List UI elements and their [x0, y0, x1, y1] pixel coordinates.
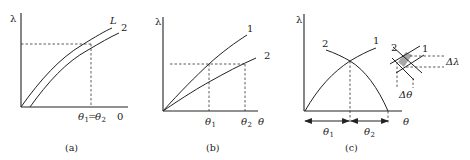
- svg-text:2: 2: [371, 131, 375, 139]
- svg-text:θ: θ: [364, 126, 370, 137]
- y-axis-label: λ: [155, 16, 162, 27]
- panel-a: λ L 2 θ 1 = θ 2 0 (a): [10, 13, 128, 153]
- delta-lambda-label: Δλ: [445, 56, 460, 67]
- curve-2: [30, 33, 119, 107]
- inset-uncertainty-diagram: 2 1 Δλ Δθ: [390, 42, 460, 100]
- inset-label-2: 2: [391, 42, 397, 53]
- svg-text:θ: θ: [323, 126, 329, 137]
- theta2-label: θ 2: [364, 126, 375, 139]
- theta1-label: θ 1: [323, 126, 334, 139]
- svg-text:2: 2: [102, 116, 106, 124]
- y-axis-label: λ: [296, 14, 303, 25]
- curve-label-2: 2: [322, 38, 328, 49]
- delta-theta-label: Δθ: [398, 89, 412, 100]
- svg-text:1: 1: [212, 121, 216, 129]
- curve-2: [163, 58, 256, 111]
- curve-label-L: L: [109, 15, 117, 26]
- svg-text:θ: θ: [205, 116, 211, 127]
- hatched-region: [398, 52, 412, 67]
- caption-c: (c): [345, 142, 358, 153]
- x-tick-theta1: θ 1: [205, 116, 216, 129]
- curve-label-1: 1: [373, 35, 379, 46]
- x-axis-end-label: 0: [117, 111, 123, 122]
- curve-L: [21, 28, 112, 107]
- x-axis-label: θ: [403, 116, 409, 127]
- svg-text:2: 2: [248, 121, 252, 129]
- caption-a: (a): [65, 142, 78, 153]
- caption-b: (b): [206, 142, 220, 153]
- curve-1: [163, 35, 247, 111]
- curve-label-2: 2: [121, 22, 127, 33]
- curve-1: [305, 48, 376, 111]
- svg-text:θ: θ: [78, 111, 84, 122]
- svg-text:θ: θ: [95, 111, 101, 122]
- svg-text:θ: θ: [241, 116, 247, 127]
- y-axis-label: λ: [10, 13, 17, 24]
- figure: λ L 2 θ 1 = θ 2 0 (a) λ 1 2 θ 1: [0, 0, 470, 160]
- x-axis-label: θ: [258, 116, 264, 127]
- svg-text:1: 1: [330, 131, 334, 139]
- x-tick-theta2: θ 2: [241, 116, 252, 129]
- curve-label-2: 2: [264, 50, 270, 61]
- curve-label-1: 1: [247, 23, 253, 34]
- x-tick-label: θ 1 = θ 2: [78, 111, 106, 124]
- panel-b: λ 1 2 θ 1 θ 2 θ (b): [155, 16, 270, 153]
- inset-label-1: 1: [422, 43, 428, 54]
- panel-c: λ 2 1 θ θ 1 θ 2 2 1: [296, 14, 460, 153]
- curve-2: [326, 50, 388, 111]
